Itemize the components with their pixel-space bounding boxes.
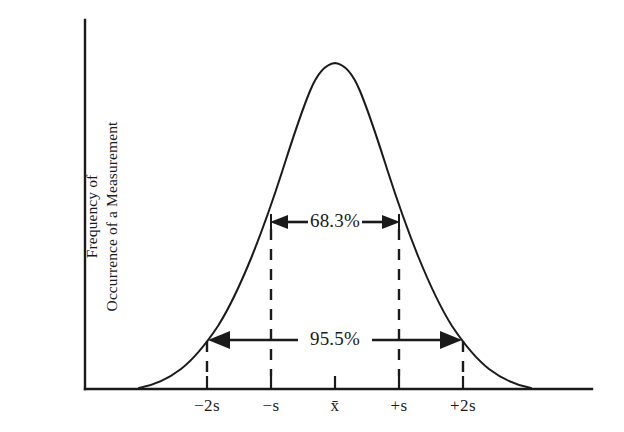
x-axis-ticks [207,376,463,389]
y-axis-label-line-1: Frequency of [82,121,102,311]
arrow-95-left [208,331,298,349]
y-axis-label: Frequency of Occurrence of a Measurement [8,0,80,432]
annotation-95-percent: 95.5% [310,328,360,350]
x-tick-label-plus1s: +s [390,396,407,416]
x-tick-label-xbar: x̄ [331,396,340,416]
arrow-95-right [372,331,462,349]
x-tick-label-minus2s: −2s [194,396,220,416]
normal-distribution-figure: Frequency of Occurrence of a Measurement… [0,0,624,432]
annotation-68-percent: 68.3% [310,210,360,232]
arrow-68-left [270,215,308,229]
arrow-68-right [362,215,400,229]
x-tick-label-plus2s: +2s [450,396,476,416]
x-tick-label-minus1s: −s [262,396,279,416]
y-axis-label-line-2: Occurrence of a Measurement [103,121,123,311]
